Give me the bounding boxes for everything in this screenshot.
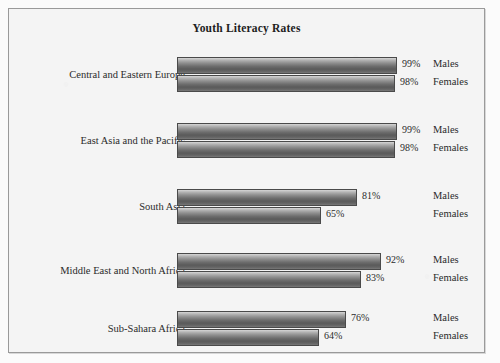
bar-value-label: 64%: [324, 330, 342, 341]
screenshot-root: Youth Literacy Rates Central and Eastern…: [0, 0, 500, 363]
bar-value-label: 99%: [402, 124, 420, 135]
series-label-males: Males: [433, 58, 459, 69]
bar-females: [177, 271, 361, 288]
bar-males: [177, 253, 381, 270]
bar-value-label: 99%: [402, 58, 420, 69]
bar-group: Middle East and North Africa92%Males83%F…: [9, 253, 484, 289]
category-label: East Asia and the Pacific: [0, 135, 185, 146]
bar-row: 76%: [177, 311, 399, 328]
bar-row: 98%: [177, 75, 399, 92]
series-label-males: Males: [433, 124, 459, 135]
bar-group: South Asia81%Males65%Females: [9, 189, 484, 225]
bar-value-label: 76%: [351, 312, 369, 323]
bar-row: 99%: [177, 57, 399, 74]
category-label: Central and Eastern Europe: [0, 69, 185, 80]
bar-row: 81%: [177, 189, 399, 206]
bar-row: 92%: [177, 253, 399, 270]
bar-males: [177, 57, 397, 74]
bar-value-label: 92%: [386, 254, 404, 265]
bar-females: [177, 141, 395, 158]
bar-males: [177, 311, 346, 328]
series-label-females: Females: [433, 76, 468, 87]
plot-area: Central and Eastern Europe99%Males98%Fem…: [9, 9, 484, 352]
bar-row: 65%: [177, 207, 399, 224]
bar-females: [177, 75, 395, 92]
category-label: South Asia: [0, 201, 185, 212]
bar-value-label: 83%: [366, 272, 384, 283]
series-label-males: Males: [433, 254, 459, 265]
bar-males: [177, 189, 357, 206]
bar-value-label: 65%: [326, 208, 344, 219]
bar-females: [177, 207, 321, 224]
bar-row: 83%: [177, 271, 399, 288]
series-label-females: Females: [433, 330, 468, 341]
bar-females: [177, 329, 319, 346]
series-label-females: Females: [433, 208, 468, 219]
bar-value-label: 98%: [400, 76, 418, 87]
series-label-males: Males: [433, 190, 459, 201]
bar-value-label: 81%: [362, 190, 380, 201]
series-label-males: Males: [433, 312, 459, 323]
bar-group: Sub-Sahara Africa76%Males64%Females: [9, 311, 484, 347]
chart-frame: Youth Literacy Rates Central and Eastern…: [8, 8, 485, 353]
bar-value-label: 98%: [400, 142, 418, 153]
bar-group: Central and Eastern Europe99%Males98%Fem…: [9, 57, 484, 93]
bar-row: 98%: [177, 141, 399, 158]
category-label: Middle East and North Africa: [0, 265, 185, 276]
bar-group: East Asia and the Pacific99%Males98%Fema…: [9, 123, 484, 159]
bar-males: [177, 123, 397, 140]
bar-row: 64%: [177, 329, 399, 346]
category-label: Sub-Sahara Africa: [0, 323, 185, 334]
series-label-females: Females: [433, 142, 468, 153]
bar-row: 99%: [177, 123, 399, 140]
series-label-females: Females: [433, 272, 468, 283]
